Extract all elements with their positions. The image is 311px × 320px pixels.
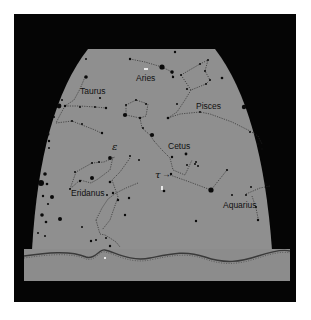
star-chart: Aries Taurus Pisces Cetus Eridanus Aquar…	[0, 0, 311, 320]
label-cetus: Cetus	[168, 141, 190, 151]
artifact-speck	[161, 186, 163, 190]
artifact-speck	[144, 68, 148, 70]
label-eridanus: Eridanus	[71, 188, 105, 198]
ground-strip	[24, 249, 290, 281]
tau-arrow-icon: →	[162, 169, 171, 179]
label-epsilon: ε	[112, 141, 117, 152]
label-taurus: Taurus	[80, 86, 106, 96]
label-aquarius: Aquarius	[223, 200, 257, 210]
label-tau: τ	[155, 169, 161, 180]
artifact-speck	[104, 257, 106, 259]
label-pisces: Pisces	[196, 101, 221, 111]
label-aries: Aries	[136, 73, 155, 83]
